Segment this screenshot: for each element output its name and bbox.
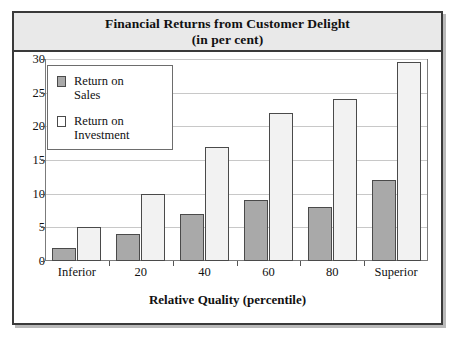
x-axis-tick-label: Superior — [364, 265, 428, 280]
x-axis-tick-label: Inferior — [45, 265, 109, 280]
bar-investment — [269, 113, 293, 261]
chart-screenshot: Financial Returns from Customer Delight … — [0, 0, 457, 339]
bar-sales — [116, 234, 140, 261]
chart-legend: Return onSales Return onInvestment — [47, 65, 173, 150]
bar-sales — [180, 214, 204, 261]
x-axis-tick-label: 60 — [236, 265, 300, 280]
legend-label-sales: Return onSales — [74, 74, 124, 102]
x-axis-labels: Inferior20406080Superior — [45, 265, 428, 280]
figure-frame: Financial Returns from Customer Delight … — [12, 11, 443, 325]
x-axis-tick-label: 20 — [109, 265, 173, 280]
x-axis-title: Relative Quality (percentile) — [14, 292, 441, 308]
chart-title: Financial Returns from Customer Delight — [105, 16, 350, 32]
bar-sales — [244, 200, 268, 261]
bar-group — [236, 59, 300, 261]
bar-group — [300, 59, 364, 261]
x-axis-tick-label: 80 — [300, 265, 364, 280]
legend-item-return-on-sales: Return onSales — [57, 74, 172, 102]
bar-investment — [397, 62, 421, 261]
bar-investment — [333, 99, 357, 261]
legend-item-return-on-investment: Return onInvestment — [57, 114, 172, 142]
legend-swatch-sales — [57, 76, 66, 87]
legend-label-sales-line1: Return on — [74, 74, 124, 88]
bar-investment — [141, 194, 165, 261]
bar-group — [173, 59, 237, 261]
bar-sales — [52, 248, 76, 261]
bar-group — [364, 59, 428, 261]
chart-subtitle: (in per cent) — [192, 32, 264, 48]
chart-body: 051015202530 Inferior20406080Superior Re… — [14, 52, 441, 323]
chart-title-band: Financial Returns from Customer Delight … — [14, 13, 441, 52]
y-axis: 051015202530 — [14, 59, 45, 261]
bar-sales — [308, 207, 332, 261]
bar-investment — [205, 147, 229, 261]
legend-label-sales-line2: Sales — [74, 88, 100, 102]
legend-label-investment-line1: Return on — [74, 114, 124, 128]
bar-sales — [372, 180, 396, 261]
legend-label-investment-line2: Investment — [74, 128, 130, 142]
legend-swatch-investment — [57, 116, 66, 127]
bar-investment — [77, 227, 101, 261]
x-axis-tick-label: 40 — [173, 265, 237, 280]
legend-label-investment: Return onInvestment — [74, 114, 130, 142]
